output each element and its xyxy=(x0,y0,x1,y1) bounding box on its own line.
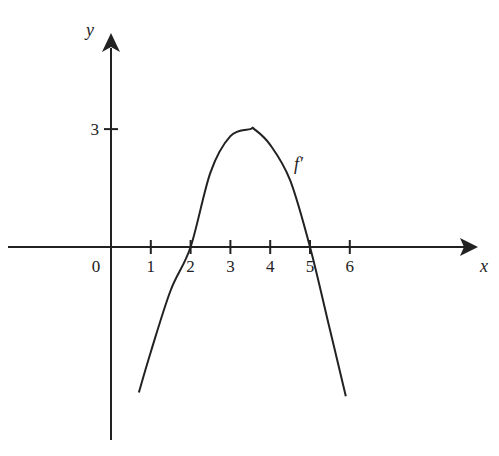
x-tick-label: 4 xyxy=(266,257,275,276)
x-tick-label: 1 xyxy=(147,257,156,276)
x-ticks: 123456 xyxy=(147,240,354,276)
y-axis-label: y xyxy=(84,20,94,40)
x-tick-label: 2 xyxy=(186,257,195,276)
chart-canvas: 123456 3 0 x y f′ xyxy=(0,0,499,456)
origin-label: 0 xyxy=(92,257,101,276)
y-ticks: 3 xyxy=(91,120,119,139)
f-prime-curve xyxy=(139,128,346,397)
y-tick-label: 3 xyxy=(91,120,100,139)
f-prime-label: f′ xyxy=(294,154,304,174)
x-tick-label: 3 xyxy=(226,257,235,276)
x-axis-label: x xyxy=(479,256,488,276)
x-tick-label: 6 xyxy=(346,257,355,276)
